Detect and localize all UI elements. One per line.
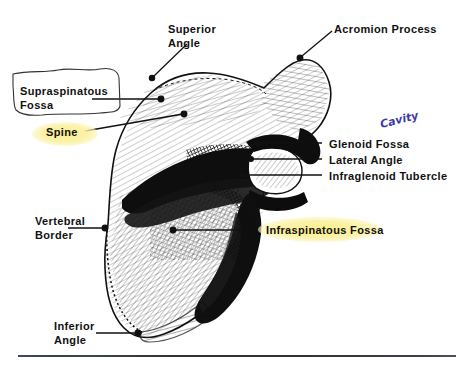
label-lateral-angle: Lateral Angle [329, 153, 403, 167]
label-spine: Spine [46, 125, 78, 139]
label-vertebral-border: VertebralBorder [35, 214, 85, 242]
scapula-illustration [0, 0, 456, 374]
label-inferior-angle: InferiorAngle [54, 319, 95, 347]
label-infraspinatous-fossa: Infraspinatous Fossa [266, 223, 384, 237]
figure-page: SuperiorAngle Acromion Process Supraspin… [0, 0, 456, 374]
label-supraspinatous-fossa: SupraspinatousFossa [20, 84, 108, 112]
scan-artifact-line [18, 355, 456, 357]
label-acromion-process: Acromion Process [334, 22, 437, 36]
label-infraglenoid-tubercle: Infraglenoid Tubercle [329, 169, 447, 183]
label-superior-angle: SuperiorAngle [168, 22, 216, 50]
label-glenoid-fossa: Glenoid Fossa [329, 137, 409, 151]
glenoid-cavity [248, 147, 302, 194]
leader-acromion-process [302, 31, 332, 56]
